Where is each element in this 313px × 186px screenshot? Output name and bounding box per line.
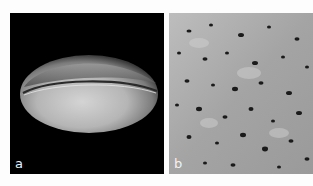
panel-label-b: b bbox=[174, 157, 182, 170]
panel-label-a: a bbox=[15, 157, 23, 170]
panel-b-exine-surface: b bbox=[169, 13, 313, 174]
panel-a-pollen-grain: a bbox=[10, 13, 164, 174]
pollen-grain-image bbox=[10, 13, 164, 174]
exine-surface-image bbox=[169, 13, 313, 174]
